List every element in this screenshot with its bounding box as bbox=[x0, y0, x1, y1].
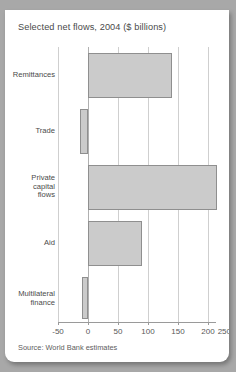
category-label-line: Remittances bbox=[13, 70, 55, 79]
gridline-minus50 bbox=[58, 47, 59, 322]
category-label-aid: Aid bbox=[7, 239, 55, 248]
x-tick-200 bbox=[208, 322, 209, 325]
x-tick-150 bbox=[178, 322, 179, 325]
bar-multilateral-finance[interactable] bbox=[82, 277, 88, 319]
x-axis-line bbox=[58, 322, 216, 323]
bar-private-capital-flows[interactable] bbox=[88, 165, 217, 210]
x-ticklabel-0: 0 bbox=[73, 327, 103, 336]
x-ticklabel-50: 50 bbox=[103, 327, 133, 336]
category-label-line: finance bbox=[7, 299, 55, 308]
x-tick-100 bbox=[148, 322, 149, 325]
chart-card: Selected net flows, 2004 ($ billions) Re… bbox=[5, 10, 229, 362]
category-label-line: flows bbox=[7, 191, 55, 200]
source-note: Source: World Bank estimates bbox=[18, 343, 117, 352]
category-label-private-capital-flows: Private capital flows bbox=[7, 174, 55, 200]
plot-area bbox=[58, 47, 215, 322]
category-label-trade: Trade bbox=[7, 127, 55, 136]
category-label-remittances: Remittances bbox=[7, 71, 55, 80]
x-ticklabel-250: 250 bbox=[201, 327, 229, 336]
chart-title: Selected net flows, 2004 ($ billions) bbox=[18, 22, 166, 32]
category-label-line: Aid bbox=[44, 238, 55, 247]
x-tick-50 bbox=[118, 322, 119, 325]
category-label-multilateral-finance: Multilateral finance bbox=[7, 290, 55, 307]
x-tick-minus50 bbox=[58, 322, 59, 325]
category-axis: Remittances Trade Private capital flows … bbox=[5, 47, 55, 322]
x-tick-0 bbox=[88, 322, 89, 325]
category-label-line: Trade bbox=[35, 126, 55, 135]
bar-remittances[interactable] bbox=[88, 53, 172, 98]
x-ticklabel-minus50: -50 bbox=[43, 327, 73, 336]
x-ticklabel-100: 100 bbox=[133, 327, 163, 336]
x-ticklabel-150: 150 bbox=[163, 327, 193, 336]
bar-trade[interactable] bbox=[80, 109, 88, 154]
bar-aid[interactable] bbox=[88, 221, 142, 266]
window-top-band bbox=[0, 0, 236, 10]
